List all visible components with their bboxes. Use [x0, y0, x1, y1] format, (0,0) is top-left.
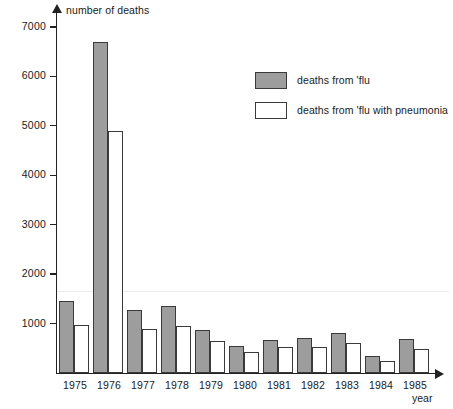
bar-1984-series2 [380, 361, 395, 373]
bar-1975-series1 [59, 301, 74, 373]
bar-1985-series2 [414, 349, 429, 373]
bar-1980-series1 [229, 346, 244, 373]
bar-1978-series1 [161, 306, 176, 373]
bar-1977-series1 [127, 310, 142, 373]
bar-1982-series1 [297, 338, 312, 373]
bar-1975-series2 [74, 325, 89, 373]
bar-1981-series2 [278, 347, 293, 373]
legend-swatch-flu [255, 72, 287, 89]
bar-1979-series2 [210, 341, 225, 373]
bar-1977-series2 [142, 329, 157, 373]
bar-1976-series2 [108, 131, 123, 373]
bar-1976-series1 [93, 42, 108, 373]
bar-1981-series1 [263, 340, 278, 373]
bar-1983-series1 [331, 333, 346, 373]
bar-1983-series2 [346, 343, 361, 373]
plot-area: 1975197619771978197919801981198219831984… [0, 0, 453, 409]
bar-1978-series2 [176, 326, 191, 373]
legend-label-flu: deaths from 'flu [297, 74, 370, 86]
bar-1982-series2 [312, 347, 327, 373]
legend-label-flu-pneumonia: deaths from 'flu with pneumonia [297, 104, 448, 116]
bar-1980-series2 [244, 352, 259, 373]
bar-1984-series1 [365, 356, 380, 373]
flu-deaths-bar-chart: number of deaths year 100020003000400050… [0, 0, 453, 409]
bar-1979-series1 [195, 330, 210, 373]
legend-swatch-flu-pneumonia [255, 102, 287, 119]
bar-1985-series1 [399, 339, 414, 373]
x-axis-tick-label: 1985 [394, 379, 436, 391]
